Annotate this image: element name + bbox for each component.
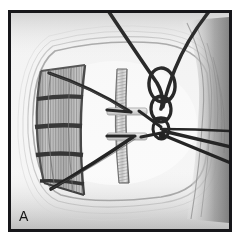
photo-frame: A xyxy=(8,10,232,232)
scene-artwork xyxy=(11,13,229,229)
figure-root: A photograph xyxy=(0,0,240,242)
photograph-scene: A xyxy=(11,13,229,229)
panel-label: A xyxy=(19,209,29,223)
